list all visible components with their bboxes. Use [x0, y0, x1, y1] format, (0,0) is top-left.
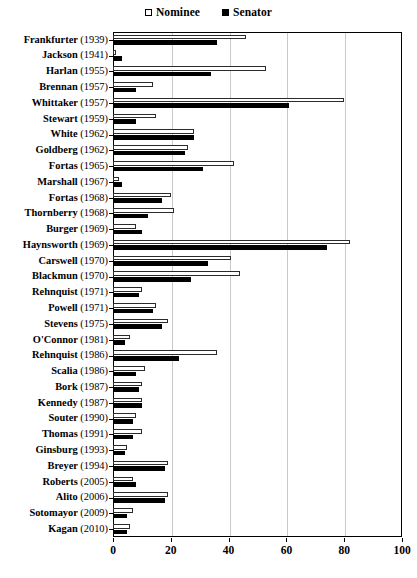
x-tick-20 — [171, 538, 172, 542]
bar-nominee — [113, 271, 240, 276]
legend-entry-nominee: Nominee — [145, 6, 200, 18]
bar-nominee — [113, 508, 133, 513]
bar-senator — [113, 387, 139, 392]
bar-nominee — [113, 477, 133, 482]
bar-nominee — [113, 382, 142, 387]
bar-row: Frankfurter (1939) — [0, 32, 417, 48]
bar-pair — [113, 64, 402, 80]
bar-senator — [113, 72, 211, 77]
bar-nominee — [113, 66, 266, 71]
bar-pair — [113, 458, 402, 474]
category-label: Kennedy (1987) — [0, 398, 111, 408]
bar-pair — [113, 411, 402, 427]
bar-senator — [113, 372, 136, 377]
bar-nominee — [113, 429, 142, 434]
category-label: Stewart (1959) — [0, 114, 111, 124]
bar-senator — [113, 451, 125, 456]
bar-row: Roberts (2005) — [0, 474, 417, 490]
bar-row: Goldberg (1962) — [0, 142, 417, 158]
bar-rows: Frankfurter (1939)Jackson (1941)Harlan (… — [0, 32, 417, 537]
bar-row: Fortas (1968) — [0, 190, 417, 206]
bar-pair — [113, 316, 402, 332]
category-label: Scalia (1986) — [0, 366, 111, 376]
bar-pair — [113, 474, 402, 490]
category-label: Kagan (2010) — [0, 524, 111, 534]
x-tick-label-40: 40 — [223, 544, 235, 556]
x-tick-80 — [344, 538, 345, 542]
bar-nominee — [113, 224, 136, 229]
category-label: Fortas (1968) — [0, 193, 111, 203]
bar-pair — [113, 32, 402, 48]
bar-nominee — [113, 335, 130, 340]
x-axis: 020406080100 — [113, 538, 402, 568]
bar-senator — [113, 261, 208, 266]
category-label: Stevens (1975) — [0, 319, 111, 329]
x-tick-40 — [229, 538, 230, 542]
bar-pair — [113, 174, 402, 190]
category-label: Goldberg (1962) — [0, 145, 111, 155]
x-tick-label-60: 60 — [281, 544, 293, 556]
bar-nominee — [113, 177, 119, 182]
filled-square-icon — [222, 9, 229, 16]
bar-senator — [113, 88, 136, 93]
bar-pair — [113, 490, 402, 506]
legend-label-nominee: Nominee — [156, 6, 200, 18]
bar-row: Kagan (2010) — [0, 521, 417, 537]
bar-senator — [113, 482, 136, 487]
bar-senator — [113, 214, 148, 219]
x-tick-0 — [113, 538, 114, 542]
bar-nominee — [113, 445, 127, 450]
bar-senator — [113, 119, 136, 124]
category-label: Ginsburg (1993) — [0, 445, 111, 455]
bar-row: Harlan (1955) — [0, 64, 417, 80]
bar-senator — [113, 466, 165, 471]
category-label: Jackson (1941) — [0, 50, 111, 60]
bar-senator — [113, 103, 289, 108]
bar-senator — [113, 419, 133, 424]
category-label: Rehnquist (1986) — [0, 350, 111, 360]
x-tick-label-80: 80 — [338, 544, 350, 556]
x-tick-label-100: 100 — [393, 544, 410, 556]
bar-nominee — [113, 129, 194, 134]
bar-nominee — [113, 240, 350, 245]
category-label: Alito (2006) — [0, 492, 111, 502]
bar-nominee — [113, 35, 246, 40]
bar-row: Rehnquist (1986) — [0, 348, 417, 364]
category-label: Burger (1969) — [0, 224, 111, 234]
bar-pair — [113, 111, 402, 127]
bar-nominee — [113, 208, 174, 213]
category-label: White (1962) — [0, 129, 111, 139]
legend-entry-senator: Senator — [222, 6, 272, 18]
bar-pair — [113, 332, 402, 348]
bar-pair — [113, 95, 402, 111]
bar-nominee — [113, 193, 171, 198]
bar-pair — [113, 221, 402, 237]
bar-senator — [113, 277, 191, 282]
category-label: Carswell (1970) — [0, 256, 111, 266]
bar-row: Kennedy (1987) — [0, 395, 417, 411]
bar-nominee — [113, 413, 136, 418]
bar-senator — [113, 340, 125, 345]
bar-nominee — [113, 50, 116, 55]
bar-pair — [113, 158, 402, 174]
bar-nominee — [113, 145, 188, 150]
x-tick-60 — [286, 538, 287, 542]
category-label: Blackmun (1970) — [0, 271, 111, 281]
category-label: Bork (1987) — [0, 382, 111, 392]
bar-pair — [113, 48, 402, 64]
bar-senator — [113, 40, 217, 45]
x-tick-label-20: 20 — [165, 544, 177, 556]
bar-row: Bork (1987) — [0, 379, 417, 395]
category-label: Sotomayor (2009) — [0, 508, 111, 518]
bar-senator — [113, 182, 122, 187]
bar-nominee — [113, 398, 142, 403]
bar-senator — [113, 356, 179, 361]
category-label: O'Connor (1981) — [0, 335, 111, 345]
bar-row: Whittaker (1957) — [0, 95, 417, 111]
bar-row: Scalia (1986) — [0, 363, 417, 379]
category-label: Brennan (1957) — [0, 82, 111, 92]
bar-senator — [113, 435, 133, 440]
bar-senator — [113, 324, 162, 329]
bar-row: Souter (1990) — [0, 411, 417, 427]
bar-nominee — [113, 350, 217, 355]
